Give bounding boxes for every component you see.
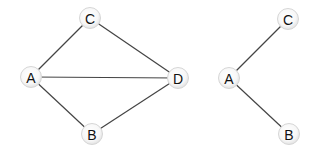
edges-layer [31, 18, 289, 134]
node-full-graph-B: B [82, 124, 103, 145]
node-label: B [87, 127, 96, 143]
edge-full-graph-A-B [31, 77, 92, 134]
node-label: B [284, 127, 293, 143]
node-label: C [85, 11, 95, 27]
node-label: A [224, 71, 234, 87]
edge-full-graph-A-D [31, 77, 178, 78]
edge-full-graph-A-C [31, 18, 90, 77]
graph-diagram-canvas: ABCDABC [0, 0, 319, 160]
node-full-graph-C: C [80, 8, 101, 29]
node-label: D [173, 71, 183, 87]
edge-full-graph-C-D [90, 18, 178, 78]
node-label: A [26, 70, 36, 86]
edge-full-graph-B-D [92, 78, 178, 134]
edge-subgraph-A-B [229, 78, 289, 134]
node-subgraph-A: A [219, 68, 240, 89]
node-full-graph-A: A [21, 67, 42, 88]
nodes-layer: ABCDABC [21, 8, 300, 145]
edge-subgraph-A-C [229, 19, 288, 78]
node-subgraph-B: B [279, 124, 300, 145]
node-label: C [283, 12, 293, 28]
node-full-graph-D: D [168, 68, 189, 89]
node-subgraph-C: C [278, 9, 299, 30]
